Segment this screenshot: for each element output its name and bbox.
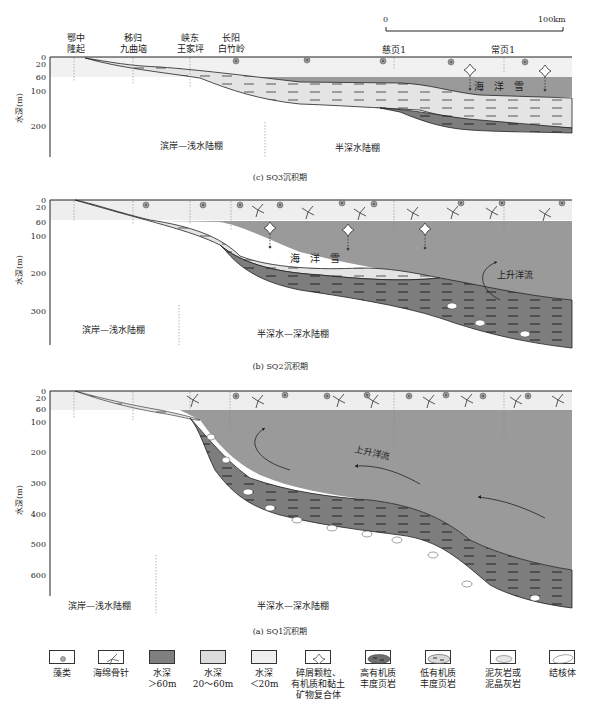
panel-b-marine-snow-label: 海 洋 雪 (290, 252, 340, 264)
panel-c-y-axis-label: 水深(m) (14, 93, 24, 123)
svg-text:200: 200 (31, 269, 46, 278)
legend-item-nodule: 结核体 (522, 650, 589, 679)
svg-text:300: 300 (31, 479, 46, 488)
panel-c-zone-right: 半深水陆棚 (335, 142, 380, 153)
svg-text:100: 100 (31, 418, 46, 427)
clastic-particle-icon (305, 650, 331, 664)
scale-bar: 0 100km (383, 15, 566, 31)
legend-label-line1: 低有机质 (420, 668, 456, 678)
svg-text:60: 60 (36, 73, 46, 82)
sponge-spicule-icon (98, 650, 124, 664)
marl-limestone-swatch (490, 650, 516, 664)
location-zigui-line2: 九曲垴 (120, 43, 147, 54)
panel-c-caption: (c) SQ3沉积期 (253, 172, 307, 182)
panel-a-y-axis-label: 水深(m) (14, 485, 24, 515)
low-organic-shale-swatch (425, 650, 451, 664)
location-changyang-line1: 长阳 (222, 32, 240, 43)
panel-b-caption: (b) SQ2沉积期 (252, 361, 307, 371)
legend-label-line1: 高有机质 (360, 668, 396, 678)
location-changye1: 常页1 (491, 44, 515, 55)
svg-text:600: 600 (31, 571, 46, 580)
panel-c-zone-left: 滨岸—浅水陆棚 (160, 140, 223, 151)
location-zigui-line1: 秭归 (124, 32, 142, 43)
svg-text:300: 300 (31, 307, 46, 316)
panel-c-marine-snow-label: 海 洋 雪 (474, 80, 524, 92)
svg-text:20: 20 (36, 203, 46, 212)
location-ezhong-line2: 隆起 (67, 43, 85, 54)
location-ezhong-line1: 鄂中 (67, 32, 85, 43)
location-xiadong-line2: 王家坪 (177, 43, 204, 54)
svg-text:500: 500 (31, 540, 46, 549)
legend-label-line1: 水深 (153, 668, 171, 678)
svg-text:100: 100 (31, 232, 46, 241)
svg-text:60: 60 (36, 218, 46, 227)
legend-label-line1: 水深 (204, 668, 222, 678)
deep-water-swatch (149, 650, 175, 664)
legend-label-line1: 泥灰岩或 (485, 668, 521, 678)
svg-text:60: 60 (36, 405, 46, 414)
svg-text:200: 200 (31, 122, 46, 131)
panel-b-zone-right: 半深水—深水陆棚 (257, 328, 329, 339)
location-labels: 鄂中 隆起 秭归 九曲垴 峡东 王家坪 长阳 白竹岭 慈页1 常页1 (67, 32, 515, 55)
location-ciye1: 慈页1 (382, 44, 406, 55)
panel-b-upwelling-label: 上升洋流 (497, 269, 533, 280)
panel-b-y-axis-label: 水深(m) (14, 255, 24, 285)
legend-label-line2: 有机质和黏土 (291, 679, 345, 689)
panel-a-caption: (a) SQ1沉积期 (253, 626, 308, 636)
svg-text:200: 200 (31, 448, 46, 457)
svg-text:20: 20 (36, 394, 46, 403)
svg-text:100: 100 (31, 87, 46, 96)
location-changyang-line2: 白竹岭 (218, 43, 245, 54)
legend-label-line1: 水深 (255, 668, 273, 678)
mid-water-swatch (200, 650, 226, 664)
legend: 藻类 海绵骨针 水深＞60m 水深20～60m 水深＜20m 碎屑颗粒、有机质和… (0, 650, 589, 710)
legend-label: 结核体 (522, 668, 589, 679)
legend-label-line1: 碎屑颗粒、 (296, 668, 341, 678)
location-xiadong-line1: 峡东 (181, 32, 199, 43)
legend-label-line2: ＜20m (250, 679, 279, 689)
panel-b-sq2: 0 20 60 100 200 300 水深(m) (14, 196, 572, 371)
panel-c-y-ticks: 0 20 60 100 200 (31, 53, 46, 131)
panel-a-y-ticks: 0 20 60 100 200 300 400 500 600 (31, 387, 46, 580)
legend-label-line2: 丰度页岩 (420, 679, 456, 689)
panel-c-sq3: 0 20 60 100 200 水深(m) 海 洋 雪 滨岸—浅水陆棚 半深水陆… (14, 53, 572, 182)
scale-start: 0 (383, 15, 388, 24)
panel-a-sq1: 0 20 60 100 200 300 400 500 600 水深(m) (14, 387, 572, 636)
panel-b-zone-left: 滨岸—浅水陆棚 (82, 324, 145, 335)
shallow-water-swatch (251, 650, 277, 664)
panel-a-zone-left: 滨岸—浅水陆棚 (68, 600, 131, 611)
legend-label-line2: 丰度页岩 (360, 679, 396, 689)
panel-a-zone-right: 半深水—深水陆棚 (257, 600, 329, 611)
legend-label-line3: 矿物复合体 (296, 690, 341, 700)
high-organic-shale-swatch (365, 650, 391, 664)
nodule-swatch (549, 650, 575, 664)
svg-text:20: 20 (36, 60, 46, 69)
panel-b-y-ticks: 0 20 60 100 200 300 (31, 196, 46, 316)
legend-label-line2: 泥晶灰岩 (485, 679, 521, 689)
cross-section-diagram: 0 100km 鄂中 隆起 秭归 九曲垴 峡东 王家坪 长阳 白竹岭 慈页1 常… (0, 0, 589, 718)
svg-text:400: 400 (31, 510, 46, 519)
scale-end: 100km (538, 15, 566, 24)
